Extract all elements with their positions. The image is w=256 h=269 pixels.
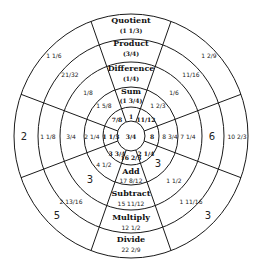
sum-upper-right: 1 2/3 (150, 102, 166, 109)
diff-upper-right: 1/6 (169, 89, 179, 96)
value-divide: 22 2/9 (121, 246, 140, 253)
label-product: Product (113, 38, 149, 48)
label-sum: Sum (121, 86, 142, 96)
sum-lower-right: 3 (155, 158, 161, 169)
inner-top: 1 (129, 113, 133, 120)
sum-lower-left: 4 1/2 (96, 161, 112, 168)
quotient-upper-right: 1 2/9 (201, 52, 217, 59)
diff-upper-left: 1/8 (83, 89, 93, 96)
product-upper-right: 11/16 (182, 71, 199, 78)
product-lower-right: 1 11/16 (179, 198, 202, 205)
label-subtract: Subtract (112, 188, 151, 198)
diff-right: 7 1/4 (180, 133, 196, 140)
label-difference: Difference (108, 63, 155, 73)
value-multiply: 12 1/2 (121, 224, 140, 231)
sum-left: 2 1/4 (84, 133, 100, 140)
inner-upper-right: 11/12 (137, 116, 156, 123)
value-difference: (1/4) (123, 75, 139, 82)
sum-upper-left: 1 5/8 (96, 102, 112, 109)
center-value: 3/4 (126, 133, 137, 140)
quotient-lower-left: 5 (54, 210, 60, 221)
quotient-left: 2 (21, 131, 27, 142)
value-sum: (1 3/4) (120, 97, 143, 104)
label-divide: Divide (117, 234, 145, 244)
fraction-wheel-diagram: 3/4 Quotient (1 1/3) Product (3/4) Diffe… (0, 0, 256, 269)
product-left: 1 1/8 (40, 133, 56, 140)
quotient-upper-left: 1 1/6 (46, 52, 62, 59)
inner-left: 1 1/3 (103, 133, 120, 140)
inner-upper-left: 7/8 (112, 116, 123, 123)
inner-right: 8 (150, 133, 154, 140)
product-lower-left: 2 13/16 (59, 198, 82, 205)
value-product: (3/4) (123, 50, 139, 57)
label-quotient: Quotient (111, 15, 151, 25)
value-subtract: 15 11/12 (118, 200, 145, 207)
quotient-right: 10 2/3 (227, 133, 246, 140)
diff-left: 3/4 (66, 133, 76, 140)
quotient-lower-right: 3 (205, 210, 211, 221)
diff-lower-right: 1 1/2 (166, 177, 182, 184)
diff-lower-left: 3 (87, 174, 93, 185)
value-quotient: (1 1/3) (120, 27, 143, 34)
label-multiply: Multiply (112, 212, 150, 222)
sum-right: 8 3/4 (162, 133, 178, 140)
label-add: Add (121, 166, 140, 176)
value-add: 17 8/12 (119, 177, 142, 184)
product-upper-left: 21/32 (61, 71, 78, 78)
product-right: 6 (209, 131, 215, 142)
inner-lower-left: 3 3/4 (109, 150, 126, 157)
